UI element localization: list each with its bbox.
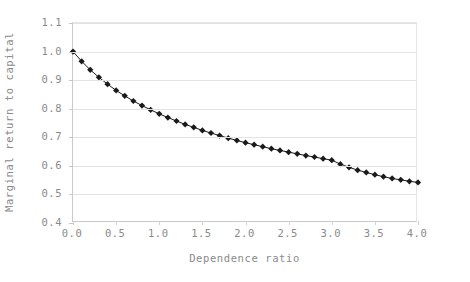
y-tick-mark: [69, 166, 73, 167]
data-point-marker: [286, 149, 292, 155]
data-point-marker: [199, 127, 205, 133]
x-tick-mark: [116, 221, 117, 225]
x-tick-mark: [159, 221, 160, 225]
y-gridline: [73, 194, 416, 195]
x-tick-mark: [289, 221, 290, 225]
y-tick-label: 0.6: [42, 160, 62, 170]
chart-container: Marginal return to capital 1.11.00.90.80…: [0, 0, 470, 282]
x-tick-mark: [332, 221, 333, 225]
y-tick-label: 0.8: [42, 103, 62, 113]
data-point-marker: [260, 144, 266, 150]
data-point-marker: [191, 124, 197, 130]
y-tick-mark: [69, 80, 73, 81]
x-tick-label: 0.0: [62, 228, 82, 239]
data-point-marker: [406, 178, 412, 184]
y-tick-label: 0.7: [42, 131, 62, 141]
y-gridline: [73, 52, 416, 53]
data-point-marker: [380, 174, 386, 180]
x-tick-mark: [246, 221, 247, 225]
x-tick-mark: [202, 221, 203, 225]
data-point-marker: [242, 140, 248, 146]
x-tick-label: 2.5: [277, 228, 297, 239]
data-point-marker: [148, 107, 154, 113]
y-tick-label: 1.0: [42, 46, 62, 56]
data-series-line: [73, 23, 418, 223]
data-point-marker: [415, 179, 421, 185]
y-tick-label: 0.9: [42, 74, 62, 84]
x-axis-title-label: Dependence ratio: [189, 252, 300, 264]
series-polyline: [73, 52, 418, 183]
data-point-marker: [268, 146, 274, 152]
y-gridline: [73, 137, 416, 138]
x-tick-label: 3.5: [364, 228, 384, 239]
y-tick-mark: [69, 194, 73, 195]
data-point-marker: [277, 147, 283, 153]
x-tick-label: 1.5: [191, 228, 211, 239]
y-gridline: [73, 166, 416, 167]
data-point-marker: [130, 98, 136, 104]
plot-area: [72, 22, 417, 222]
x-tick-mark: [375, 221, 376, 225]
x-tick-label: 2.0: [234, 228, 254, 239]
data-point-marker: [165, 114, 171, 120]
y-axis-tick-labels: 1.11.00.90.80.70.60.50.4: [0, 0, 68, 282]
x-tick-mark: [73, 221, 74, 225]
x-tick-label: 1.0: [148, 228, 168, 239]
data-point-marker: [294, 151, 300, 157]
data-point-marker: [311, 154, 317, 160]
data-point-marker: [389, 175, 395, 181]
data-point-marker: [320, 156, 326, 162]
x-axis-title: Dependence ratio: [72, 252, 417, 264]
data-point-marker: [303, 152, 309, 158]
y-tick-label: 0.5: [42, 188, 62, 198]
data-point-marker: [398, 177, 404, 183]
y-gridline: [73, 23, 416, 24]
data-point-marker: [372, 172, 378, 178]
data-point-marker: [182, 121, 188, 127]
data-point-marker: [173, 118, 179, 124]
y-tick-mark: [69, 109, 73, 110]
data-point-marker: [122, 93, 128, 99]
data-point-marker: [156, 111, 162, 117]
y-gridline: [73, 80, 416, 81]
data-point-marker: [329, 157, 335, 163]
data-point-marker: [363, 169, 369, 175]
y-tick-mark: [69, 137, 73, 138]
x-tick-mark: [418, 221, 419, 225]
data-point-marker: [208, 130, 214, 136]
data-point-marker: [355, 167, 361, 173]
x-tick-label: 4.0: [407, 228, 427, 239]
x-tick-label: 0.5: [105, 228, 125, 239]
y-tick-mark: [69, 23, 73, 24]
y-gridline: [73, 109, 416, 110]
y-tick-mark: [69, 52, 73, 53]
data-point-marker: [251, 142, 257, 148]
x-tick-label: 3.0: [321, 228, 341, 239]
y-tick-label: 1.1: [42, 17, 62, 27]
y-tick-label: 0.4: [42, 217, 62, 227]
